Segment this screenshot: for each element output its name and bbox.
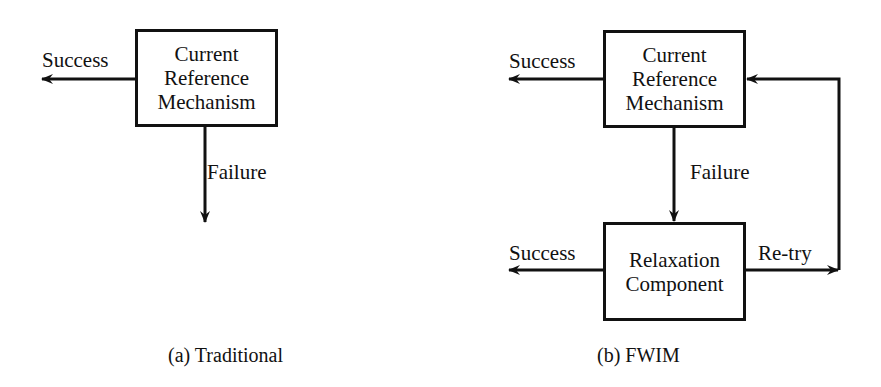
success-label-a: Success	[42, 48, 109, 72]
success-label-b-top: Success	[509, 49, 576, 73]
failure-label-b: Failure	[690, 160, 749, 184]
retry-label: Re-try	[758, 241, 812, 265]
success-label-b-bottom: Success	[509, 241, 576, 265]
box-line: Mechanism	[158, 90, 256, 114]
caption-a: (a) Traditional	[168, 343, 283, 367]
box-line: Current	[174, 42, 238, 66]
current-reference-mechanism-box-a: Current Reference Mechanism	[135, 29, 278, 127]
connector-arrows	[0, 0, 881, 387]
box-line: Relaxation	[629, 248, 720, 272]
box-line: Component	[626, 272, 724, 296]
caption-b: (b) FWIM	[597, 343, 680, 367]
relaxation-component-box: Relaxation Component	[603, 222, 746, 321]
failure-label-a: Failure	[207, 160, 266, 184]
box-line: Current	[642, 43, 706, 67]
current-reference-mechanism-box-b: Current Reference Mechanism	[603, 30, 746, 128]
box-line: Reference	[632, 67, 717, 91]
box-line: Reference	[164, 66, 249, 90]
box-line: Mechanism	[626, 91, 724, 115]
